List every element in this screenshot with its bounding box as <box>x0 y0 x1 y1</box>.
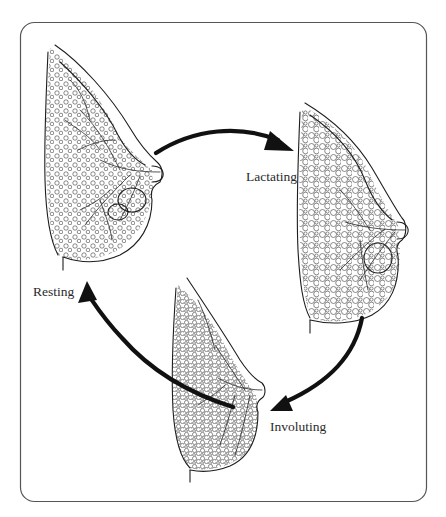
involuting-breast-illustration <box>172 278 265 482</box>
label-resting: Resting <box>33 285 74 299</box>
arrow-resting-to-lactating <box>156 131 294 153</box>
lactation-cycle-diagram <box>0 0 446 517</box>
label-lactating: Lactating <box>246 170 297 184</box>
arrow-lactating-to-involuting <box>270 318 362 411</box>
lactating-breast-illustration <box>297 103 408 333</box>
resting-breast-illustration <box>45 45 163 270</box>
label-involuting: Involuting <box>270 420 326 434</box>
